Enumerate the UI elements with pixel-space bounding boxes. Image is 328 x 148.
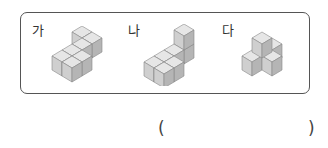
answer-paren-open: ( xyxy=(158,118,165,138)
figure-label-da: 다 xyxy=(222,20,234,39)
cube-figure-ga xyxy=(50,26,120,86)
answer-blank[interactable] xyxy=(172,116,302,138)
answer-paren-close: ) xyxy=(308,118,315,138)
cube-figure-na xyxy=(142,24,212,86)
cube-figure-da xyxy=(234,24,304,86)
figure-label-ga: 가 xyxy=(32,20,44,39)
figure-label-na: 나 xyxy=(128,20,140,39)
